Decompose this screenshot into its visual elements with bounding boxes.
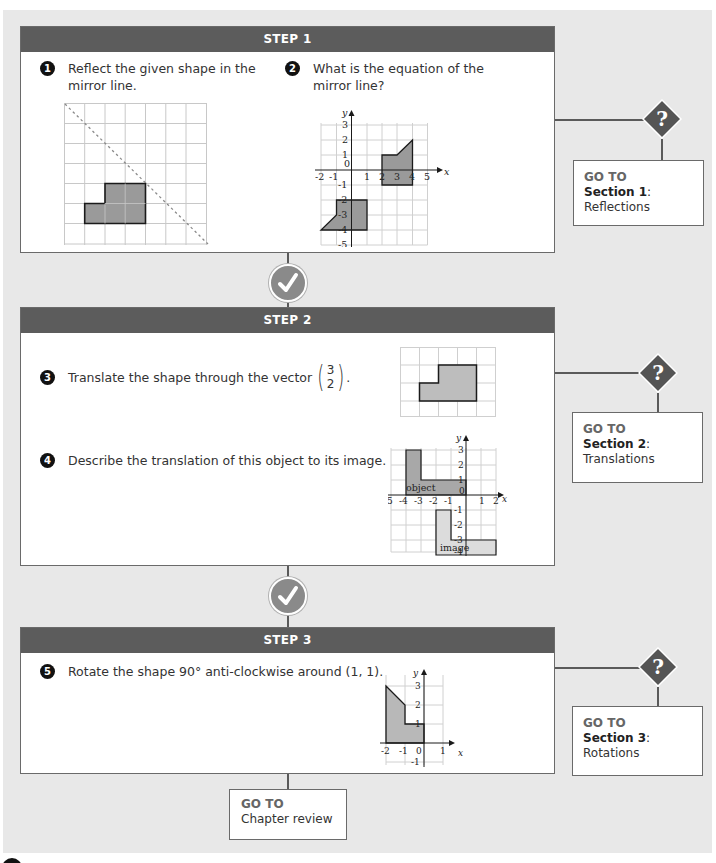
goto-colon: : bbox=[646, 437, 650, 451]
check-mark-icon bbox=[269, 264, 307, 302]
y-tick: 1 bbox=[415, 719, 421, 729]
y-axis-label: y bbox=[455, 433, 462, 443]
y-tick: -4 bbox=[338, 224, 347, 235]
y-axis-label: y bbox=[412, 668, 419, 678]
question-text: Rotate the shape 90° anti-clockwise arou… bbox=[68, 663, 383, 680]
x-tick: 2 bbox=[493, 496, 499, 506]
reflection-grid bbox=[64, 103, 209, 245]
x-tick: 1 bbox=[479, 496, 485, 506]
page-marker bbox=[2, 858, 22, 863]
x-tick: -1 bbox=[444, 496, 453, 506]
x-tick: -1 bbox=[329, 171, 338, 182]
x-tick: 0 bbox=[459, 486, 465, 496]
check-mark-icon bbox=[269, 577, 307, 615]
x-tick: 4 bbox=[409, 171, 415, 182]
help-connector bbox=[555, 667, 645, 669]
x-axis-label: x bbox=[444, 166, 450, 177]
x-tick: 1 bbox=[364, 171, 370, 182]
goto-section: Section 2 bbox=[583, 437, 646, 451]
y-tick: -1 bbox=[338, 179, 347, 190]
goto-name: Reflections bbox=[584, 200, 693, 215]
question-diamond-icon[interactable]: ? bbox=[638, 353, 678, 393]
y-tick: -3 bbox=[338, 209, 347, 220]
question-number: 5 bbox=[40, 664, 55, 679]
x-axis-label: x bbox=[458, 748, 463, 758]
y-tick: 3 bbox=[415, 681, 421, 691]
question-3: 3 Translate the shape through the vector… bbox=[40, 362, 350, 392]
flow-connector bbox=[287, 773, 289, 790]
x-axis-label: x bbox=[502, 494, 507, 504]
x-tick: 3 bbox=[394, 171, 400, 182]
y-tick: 2 bbox=[415, 700, 421, 710]
question-text: What is the equation of the mirror line? bbox=[313, 60, 485, 94]
goto-label: GO TO bbox=[584, 170, 693, 185]
svg-text:?: ? bbox=[652, 361, 664, 385]
paren-left: ( bbox=[317, 362, 324, 392]
x-tick: -2 bbox=[381, 746, 390, 756]
svg-text:?: ? bbox=[652, 655, 664, 679]
y-tick: 1 bbox=[458, 475, 464, 485]
x-tick: 1 bbox=[440, 746, 446, 756]
step-2-header: STEP 2 bbox=[21, 308, 554, 333]
x-tick: 0 bbox=[416, 746, 422, 756]
goto-name: Chapter review bbox=[241, 812, 335, 827]
question-number: 3 bbox=[40, 370, 55, 385]
goto-name: Translations bbox=[583, 452, 692, 467]
y-tick: -1 bbox=[411, 757, 420, 767]
goto-label: GO TO bbox=[241, 797, 335, 812]
x-tick: -1 bbox=[399, 746, 408, 756]
step-1-header: STEP 1 bbox=[21, 27, 554, 52]
y-tick: -4 bbox=[454, 547, 463, 556]
goto-section-2-link[interactable]: GO TO Section 2: Translations bbox=[572, 412, 703, 483]
help-connector bbox=[657, 687, 659, 707]
x-tick: -3 bbox=[414, 496, 423, 506]
rotation-graph: y x -2 -1 0 1 3 2 1 -1 bbox=[378, 665, 478, 769]
question-number: 4 bbox=[40, 453, 55, 468]
question-1: 1 Reflect the given shape in the mirror … bbox=[40, 60, 270, 94]
question-diamond-icon[interactable]: ? bbox=[642, 99, 682, 139]
goto-colon: : bbox=[646, 731, 650, 745]
question-suffix: . bbox=[346, 369, 350, 386]
y-tick: -2 bbox=[454, 520, 463, 530]
question-4: 4 Describe the translation of this objec… bbox=[40, 452, 386, 469]
help-connector bbox=[555, 372, 645, 374]
goto-colon: : bbox=[647, 185, 651, 199]
question-diamond-icon[interactable]: ? bbox=[638, 647, 678, 687]
x-tick: -2 bbox=[315, 171, 324, 182]
help-connector bbox=[555, 119, 645, 121]
question-text: Describe the translation of this object … bbox=[68, 452, 386, 469]
question-number: 1 bbox=[40, 61, 55, 76]
goto-label: GO TO bbox=[583, 422, 692, 437]
question-text: Translate the shape through the vector bbox=[68, 369, 312, 386]
step-3-header: STEP 3 bbox=[21, 628, 554, 653]
x-tick: 5 bbox=[424, 171, 430, 182]
y-tick: 2 bbox=[458, 460, 464, 470]
translation-grid bbox=[400, 347, 496, 417]
x-tick: -4 bbox=[399, 496, 408, 506]
y-tick: -1 bbox=[454, 505, 463, 515]
question-2: 2 What is the equation of the mirror lin… bbox=[285, 60, 485, 94]
object-image-graph: object image y x -5 -4 -3 -2 -1 0 1 2 3 … bbox=[388, 430, 508, 556]
y-tick: 3 bbox=[458, 445, 464, 455]
help-connector bbox=[657, 393, 659, 413]
svg-text:?: ? bbox=[656, 107, 668, 131]
goto-section-3-link[interactable]: GO TO Section 3: Rotations bbox=[572, 706, 703, 776]
y-tick: -3 bbox=[454, 535, 463, 545]
goto-section-1-link[interactable]: GO TO Section 1: Reflections bbox=[573, 160, 704, 226]
y-tick: 3 bbox=[342, 119, 348, 130]
goto-chapter-review-link[interactable]: GO TO Chapter review bbox=[229, 789, 347, 840]
paren-right: ) bbox=[337, 362, 344, 392]
question-text: Reflect the given shape in the mirror li… bbox=[68, 60, 270, 94]
y-tick: -5 bbox=[338, 239, 347, 247]
translation-vector: ( 32 ) bbox=[315, 362, 346, 392]
x-tick: 2 bbox=[379, 171, 385, 182]
goto-section: Section 3 bbox=[583, 731, 646, 745]
object-label: object bbox=[406, 482, 436, 493]
mirror-line-graph: y x -2 -1 0 1 2 3 4 5 3 2 1 -1 -2 -3 -4 … bbox=[315, 105, 450, 247]
help-connector bbox=[661, 139, 663, 161]
y-axis-label: y bbox=[341, 107, 348, 118]
goto-name: Rotations bbox=[583, 746, 692, 761]
vector-y: 2 bbox=[327, 377, 335, 391]
y-tick: 1 bbox=[342, 149, 348, 160]
question-number: 2 bbox=[285, 61, 300, 76]
